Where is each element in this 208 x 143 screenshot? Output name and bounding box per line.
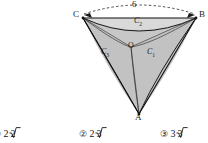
option-1[interactable]: ① 22 — [0, 126, 16, 139]
option-3-radicand: 3 — [178, 128, 183, 139]
vertex-label-A: A — [135, 113, 142, 122]
vertex-label-B: B — [199, 10, 205, 19]
arc-label-C2-sub: 2 — [139, 21, 142, 27]
option-1-marker: ① — [0, 129, 1, 139]
arc-label-C1: C1 — [147, 48, 155, 58]
option-1-radicand: 2 — [11, 128, 16, 139]
arc-label-C1-sub: 1 — [152, 52, 155, 58]
dot-C — [82, 17, 85, 20]
answer-options: ① 22 ② 23 ③ 33 — [0, 124, 208, 143]
option-3[interactable]: ③ 33 — [160, 126, 183, 139]
geometry-svg — [0, 0, 208, 143]
center-label-O: O — [128, 42, 134, 50]
dimension-label-6: 6 — [132, 0, 137, 9]
arrowhead-right — [187, 13, 195, 18]
option-2-radicand: 3 — [97, 128, 102, 139]
geometry-figure: C B A O 6 C1 C2 C3 — [0, 0, 208, 143]
shaded-region — [83, 18, 196, 114]
arc-label-C3-sub: 3 — [106, 52, 109, 58]
option-2[interactable]: ② 23 — [79, 126, 102, 139]
dot-B — [195, 17, 198, 20]
option-3-marker: ③ — [160, 129, 168, 139]
arc-label-C2: C2 — [134, 17, 142, 27]
dimension-arc — [84, 5, 195, 14]
vertex-label-C: C — [73, 10, 79, 19]
arc-label-C3: C3 — [101, 48, 109, 58]
option-2-marker: ② — [79, 129, 87, 139]
